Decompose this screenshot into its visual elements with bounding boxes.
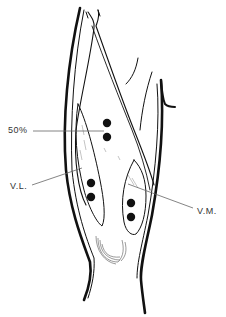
vastus-lateralis-outline <box>76 104 104 226</box>
midpoint-dot-lower <box>103 133 111 141</box>
midpoint-label: 50% <box>8 125 28 135</box>
patella-hatching <box>96 236 126 264</box>
vastus-medialis-label: V.M. <box>197 206 217 216</box>
vm-leader <box>128 184 193 208</box>
vl-dot-upper <box>87 179 95 187</box>
vm-dot-upper <box>127 199 135 207</box>
vl-leader <box>32 168 82 185</box>
thigh-diagram <box>0 0 226 317</box>
vl-dot-lower <box>87 193 95 201</box>
midpoint-dot-upper <box>103 119 111 127</box>
vastus-medialis-outline <box>122 160 146 235</box>
vastus-lateralis-label: V.L. <box>10 181 27 191</box>
vm-dot-lower <box>127 213 135 221</box>
